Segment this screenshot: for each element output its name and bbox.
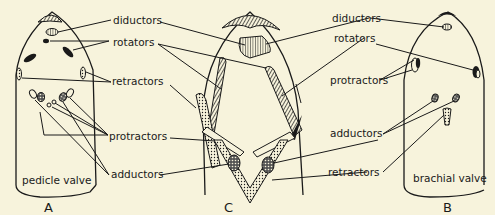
retractor-scar [17, 68, 22, 80]
adductor-muscle [262, 157, 274, 173]
label-adductors-left: adductors [111, 168, 164, 180]
brachiopod-muscle-diagram: pedicle valve A C brachial valve B [0, 0, 495, 215]
pedicle-base [214, 140, 288, 203]
pedicle-valve-outline [16, 12, 96, 185]
panel-letter-a: A [44, 200, 53, 215]
rotator-scar [61, 45, 75, 59]
panel-b-brachial-valve: brachial valve B [404, 12, 487, 215]
label-diductors-left: diductors [113, 14, 162, 26]
diductor-muscle [239, 36, 270, 58]
label-rotators-left: rotators [113, 36, 154, 48]
rotator-scar [43, 39, 49, 43]
panel-letter-c: C [224, 200, 233, 215]
label-protractors-right: protractors [330, 74, 388, 86]
panel-a-pedicle-valve: pedicle valve A [16, 12, 96, 215]
rotator-scar [23, 52, 38, 64]
label-protractors-left: protractors [109, 130, 167, 142]
caption-pedicle-valve: pedicle valve [22, 174, 91, 186]
brachial-valve-outline [404, 12, 484, 185]
retractor-scar [81, 67, 86, 79]
adductor-muscle [228, 155, 240, 171]
retractor-scar [443, 108, 451, 125]
label-adductors-right: adductors [330, 127, 383, 139]
panel-c-cross-section: C [196, 12, 303, 215]
panel-letter-b: B [443, 200, 452, 215]
label-diductors-right: diductors [332, 12, 381, 24]
adductor-scar [38, 93, 45, 102]
label-rotators-right: rotators [334, 32, 375, 44]
label-retractors-left: retractors [112, 75, 164, 87]
caption-brachial-valve: brachial valve [413, 172, 487, 184]
label-retractors-right: retractors [328, 166, 380, 178]
beak-icon [222, 15, 280, 30]
diductor-scar [46, 29, 58, 36]
